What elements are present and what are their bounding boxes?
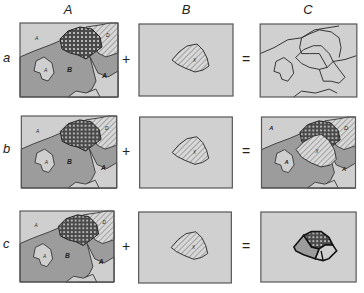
result-map-row-a <box>260 24 357 97</box>
label-d-hatched: D <box>103 220 107 225</box>
label-a-island: A <box>284 159 289 165</box>
equals-operator-a: = <box>242 51 250 67</box>
label-b-main: B <box>67 158 72 165</box>
layer-a-map-row-a: A A B A D <box>20 23 118 97</box>
label-d-hatched: D <box>105 126 109 131</box>
layer-b-map-row-c: X <box>138 212 232 283</box>
label-b-main: B <box>67 66 72 73</box>
label-a-top: A <box>33 223 37 228</box>
result-map-row-c <box>260 212 357 282</box>
label-a-right: A <box>101 72 107 79</box>
label-d-hatched: D <box>106 32 110 38</box>
row-label-c: c <box>3 236 10 251</box>
column-header-b: B <box>176 2 196 17</box>
equals-operator-c: = <box>242 238 250 254</box>
column-header-c: C <box>298 2 318 17</box>
label-d-hatched: D <box>344 125 348 131</box>
column-header-a: A <box>58 2 78 17</box>
label-a-right: A <box>100 164 106 171</box>
plus-operator-c: + <box>122 238 130 254</box>
label-a-island: A <box>44 160 48 165</box>
layer-a-map-row-b: A A B A D <box>20 116 118 188</box>
result-map-row-b: A A X A D <box>260 117 357 188</box>
layer-a-map-row-c: A A B A D <box>19 211 115 282</box>
plus-operator-a: + <box>122 51 130 67</box>
label-a-top: A <box>35 129 39 134</box>
plus-operator-b: + <box>122 143 130 159</box>
row-label-a: a <box>3 50 10 65</box>
label-a-island: A <box>43 67 48 73</box>
label-a-island: A <box>42 254 46 259</box>
label-a-top: A <box>268 125 273 131</box>
label-b-main: B <box>65 252 70 259</box>
layer-b-map-row-b: X <box>139 117 233 188</box>
label-a-top: A <box>34 35 39 41</box>
row-label-b: b <box>3 141 10 156</box>
label-a-right: A <box>98 258 104 265</box>
equals-operator-b: = <box>242 143 250 159</box>
label-a-right: A <box>341 166 346 172</box>
layer-b-map-row-a: X <box>139 24 233 96</box>
